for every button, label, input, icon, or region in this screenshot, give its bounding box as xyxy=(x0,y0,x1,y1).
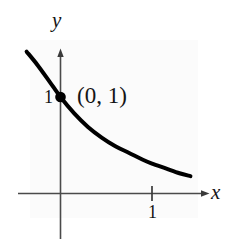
y-axis-label: y xyxy=(52,10,61,31)
y-intercept-point-marker xyxy=(55,92,66,103)
plot-area xyxy=(0,0,228,242)
y-axis-tick-label-1: 1 xyxy=(44,88,53,106)
plot-background-panel xyxy=(30,40,198,218)
exponential-function-graph: y x 1 1 (0, 1) xyxy=(0,0,228,242)
x-axis-tick-label-1: 1 xyxy=(148,203,157,221)
y-intercept-point-label: (0, 1) xyxy=(77,84,127,107)
x-axis-label: x xyxy=(211,182,220,203)
